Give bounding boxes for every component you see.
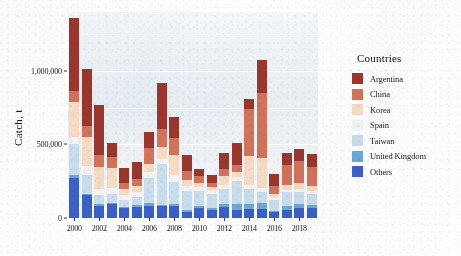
bar-segment[interactable] [294,183,304,189]
bar-group[interactable] [94,105,104,218]
bar-segment[interactable] [144,203,154,207]
bar-segment[interactable] [169,117,179,138]
bar-group[interactable] [182,155,192,218]
bar-segment[interactable] [132,207,142,218]
bar-group[interactable] [144,132,154,218]
bar-segment[interactable] [157,164,167,205]
bar-group[interactable] [307,154,317,218]
bar-segment[interactable] [257,158,267,188]
legend-item[interactable]: Taiwan [352,133,457,149]
bar-segment[interactable] [244,185,254,189]
bar-segment[interactable] [269,186,279,194]
bar-segment[interactable] [194,191,204,206]
bar-segment[interactable] [119,183,129,188]
bar-segment[interactable] [207,183,217,187]
bar-segment[interactable] [182,171,192,180]
bar-segment[interactable] [82,175,92,194]
bar-group[interactable] [157,83,167,218]
bar-segment[interactable] [207,175,217,183]
bar-segment[interactable] [207,210,217,218]
bar-segment[interactable] [69,102,79,137]
bar-segment[interactable] [294,204,304,208]
bar-segment[interactable] [119,208,129,218]
bar-segment[interactable] [94,204,104,205]
bar-segment[interactable] [169,155,179,174]
bar-segment[interactable] [157,205,167,206]
bar-segment[interactable] [282,206,292,210]
bar-segment[interactable] [232,177,242,181]
bar-segment[interactable] [294,208,304,218]
bar-segment[interactable] [244,156,254,185]
bar-segment[interactable] [194,169,204,176]
bar-segment[interactable] [232,181,242,204]
bar-group[interactable] [169,117,179,218]
bar-segment[interactable] [244,209,254,218]
bar-segment[interactable] [132,162,142,179]
bar-segment[interactable] [69,178,79,218]
bar-segment[interactable] [182,186,192,190]
bar-segment[interactable] [182,155,192,171]
bar-segment[interactable] [294,149,304,162]
bar-segment[interactable] [194,206,204,209]
bar-segment[interactable] [269,194,279,197]
bar-segment[interactable] [219,189,229,204]
bar-segment[interactable] [207,190,217,194]
bar-segment[interactable] [157,83,167,129]
bar-segment[interactable] [194,208,204,218]
bar-segment[interactable] [257,60,267,93]
bar-segment[interactable] [132,192,142,196]
bar-group[interactable] [107,143,117,218]
bar-segment[interactable] [294,189,304,192]
bar-segment[interactable] [257,209,267,218]
bar-segment[interactable] [194,187,204,191]
bar-segment[interactable] [182,180,192,187]
bar-segment[interactable] [107,157,117,168]
bar-segment[interactable] [157,206,167,218]
bar-segment[interactable] [82,69,92,126]
bar-group[interactable] [207,175,217,218]
legend-item[interactable]: Others [352,164,457,180]
bar-segment[interactable] [107,194,117,203]
bar-segment[interactable] [219,207,229,218]
bar-segment[interactable] [69,175,79,178]
bar-segment[interactable] [94,195,104,204]
bar-segment[interactable] [69,137,79,144]
bar-segment[interactable] [282,192,292,206]
bar-segment[interactable] [232,210,242,218]
bar-segment[interactable] [169,206,179,218]
bar-segment[interactable] [307,194,317,205]
bar-segment[interactable] [244,109,254,156]
bar-segment[interactable] [282,185,292,190]
bar-segment[interactable] [107,143,117,157]
bar-segment[interactable] [144,148,154,163]
bar-segment[interactable] [82,126,92,137]
bar-segment[interactable] [219,169,229,176]
bar-segment[interactable] [307,208,317,218]
bar-segment[interactable] [207,194,217,208]
bar-group[interactable] [132,162,142,218]
bar-group[interactable] [119,168,129,218]
legend-item[interactable]: Argentina [352,71,457,87]
bar-segment[interactable] [307,191,317,194]
bar-group[interactable] [69,18,79,218]
bar-group[interactable] [82,69,92,218]
bar-segment[interactable] [82,195,92,218]
bar-segment[interactable] [182,191,192,210]
bar-segment[interactable] [82,137,92,166]
bar-group[interactable] [219,153,229,218]
bar-segment[interactable] [69,144,79,176]
legend-item[interactable]: Korea [352,102,457,118]
bar-segment[interactable] [219,153,229,169]
bar-segment[interactable] [269,200,279,210]
bar-segment[interactable] [144,164,154,173]
bar-segment[interactable] [119,168,129,183]
bar-segment[interactable] [207,208,217,210]
bar-segment[interactable] [294,161,304,182]
bar-segment[interactable] [194,183,204,187]
bar-group[interactable] [282,153,292,218]
bar-segment[interactable] [69,18,79,91]
bar-segment[interactable] [132,179,142,186]
bar-segment[interactable] [119,207,129,208]
legend-item[interactable]: China [352,87,457,103]
bar-segment[interactable] [157,147,167,160]
